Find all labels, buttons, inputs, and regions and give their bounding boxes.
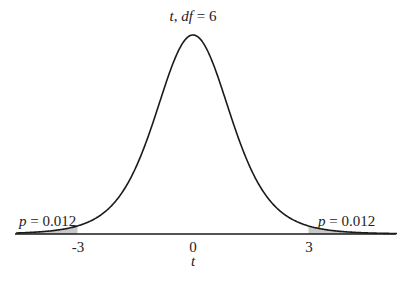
chart-title: t, df = 6 <box>170 8 217 24</box>
right-p-value-label: p = 0.012 <box>317 213 375 229</box>
x-axis-label: t <box>191 253 196 269</box>
density-curve <box>16 35 397 234</box>
x-tick-label-3: 3 <box>305 239 313 255</box>
left-p-value-label: p = 0.012 <box>18 213 76 229</box>
x-tick-label-neg3: -3 <box>72 239 85 255</box>
t-distribution-chart: t, df = 6 p = 0.012 p = 0.012 -3 0 3 t <box>0 0 410 281</box>
